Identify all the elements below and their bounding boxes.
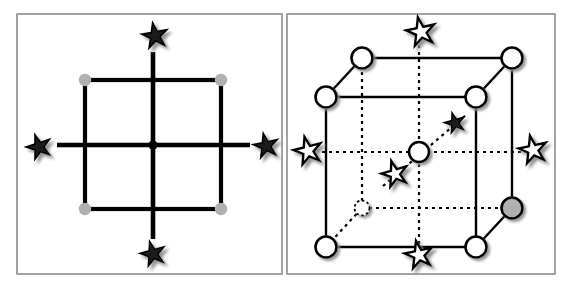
node-back-top-right <box>502 48 523 69</box>
node-front-bottom-left <box>316 237 337 258</box>
square-lattice-panel <box>17 14 282 274</box>
figure-canvas <box>0 0 571 287</box>
node-front-bottom-right <box>466 237 487 258</box>
corner-node-bottom-right <box>215 203 227 215</box>
cubic-cell-panel <box>287 14 555 274</box>
corner-node-top-right <box>215 74 227 86</box>
node-front-top-left <box>316 87 337 108</box>
corner-node-bottom-left <box>79 203 91 215</box>
node-back-top-left <box>352 48 373 69</box>
node-back-bottom-left <box>355 201 370 216</box>
node-back-bottom-right <box>502 198 523 219</box>
corner-node-top-left <box>79 74 91 86</box>
symmetry-axes-figure <box>0 0 571 287</box>
node-body-centre <box>409 142 429 162</box>
left-panel-centre-dot <box>148 140 157 149</box>
node-front-top-right <box>466 87 487 108</box>
